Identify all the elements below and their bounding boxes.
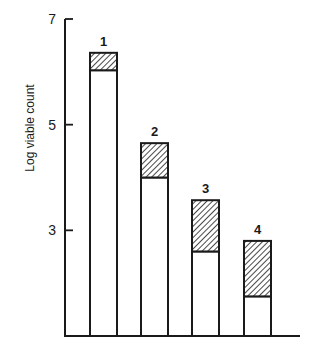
bar-open-segment <box>192 251 219 336</box>
chart: 753Log viable count1234 <box>0 0 316 354</box>
y-tick-label-3: 3 <box>48 222 56 238</box>
bar-hatched-segment <box>192 200 219 251</box>
bar-2 <box>141 143 168 336</box>
bars <box>90 53 271 336</box>
bar-label-1: 1 <box>100 34 107 49</box>
bar-hatched-segment <box>90 53 117 70</box>
bar-1 <box>90 53 117 336</box>
bar-hatched-segment <box>244 241 271 296</box>
bar-open-segment <box>90 70 117 336</box>
bar-chart-canvas: 753Log viable count1234 <box>0 0 316 354</box>
bar-label-4: 4 <box>254 222 262 237</box>
bar-label-2: 2 <box>151 124 158 139</box>
bar-4 <box>244 241 271 336</box>
bar-3 <box>192 200 219 336</box>
y-axis-label: Log viable count <box>23 84 37 172</box>
y-tick-label-7: 7 <box>48 11 56 27</box>
bar-open-segment <box>244 296 271 336</box>
y-tick-label-5: 5 <box>48 117 56 133</box>
bar-hatched-segment <box>141 143 168 177</box>
bar-open-segment <box>141 178 168 337</box>
bar-label-3: 3 <box>202 181 209 196</box>
